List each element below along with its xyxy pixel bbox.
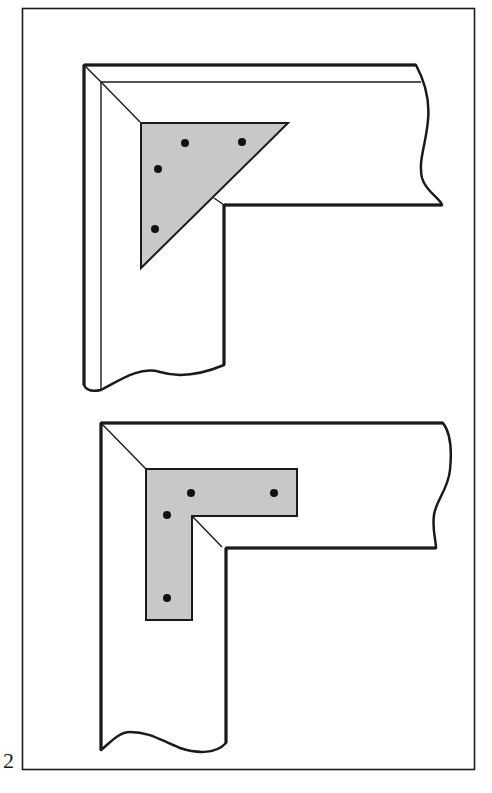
screw-hole-icon	[238, 138, 246, 146]
screw-hole-icon	[187, 489, 195, 497]
figure-number-label: 2	[3, 750, 14, 772]
top-frame-outline	[84, 65, 442, 391]
screw-hole-icon	[151, 225, 159, 233]
screw-hole-icon	[181, 139, 189, 147]
screw-hole-icon	[163, 594, 171, 602]
corner-joint-diagram	[0, 0, 492, 793]
screw-hole-icon	[163, 511, 171, 519]
screw-hole-icon	[270, 489, 278, 497]
screw-hole-icon	[154, 165, 162, 173]
top-joint	[84, 65, 442, 391]
